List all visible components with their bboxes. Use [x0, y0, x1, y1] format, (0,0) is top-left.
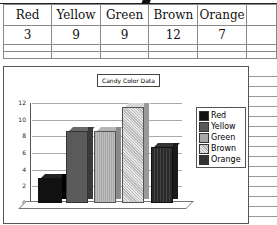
legend-item-red: Red — [199, 110, 243, 121]
legend-label: Yellow — [211, 122, 236, 131]
plot-area: 12 10 8 6 4 2 0 — [32, 103, 190, 203]
bar-side — [116, 127, 121, 199]
empty-cell[interactable] — [100, 52, 149, 59]
empty-cell[interactable] — [52, 45, 101, 52]
empty-cell[interactable] — [4, 45, 52, 52]
spreadsheet: Red Yellow Green Brown Orange 3 9 9 12 7 — [0, 0, 277, 225]
gridline — [32, 103, 182, 104]
legend-item-orange: Orange — [199, 154, 243, 165]
empty-row — [4, 45, 277, 52]
value-cell-orange[interactable]: 7 — [198, 26, 247, 45]
empty-cell[interactable] — [52, 52, 101, 59]
y-tick-label: 6 — [12, 149, 26, 156]
swatch-orange — [199, 155, 209, 165]
bar-side — [144, 103, 149, 199]
header-cell-yellow[interactable]: Yellow — [52, 5, 101, 26]
bar-face — [122, 107, 144, 203]
bar-face — [66, 131, 88, 203]
value-cell-green[interactable]: 9 — [100, 26, 149, 45]
y-tick-label: 2 — [12, 182, 26, 189]
legend-label: Red — [211, 111, 226, 120]
legend-label: Green — [211, 133, 235, 142]
bar-face — [94, 131, 116, 203]
bar-yellow[interactable] — [66, 131, 88, 203]
empty-cell[interactable] — [247, 52, 277, 59]
bar-orange[interactable] — [151, 147, 173, 203]
bar-red[interactable] — [38, 178, 62, 203]
empty-cell[interactable] — [149, 52, 198, 59]
header-cell-brown[interactable]: Brown — [149, 5, 198, 26]
y-tick-label: 4 — [12, 166, 26, 173]
header-row: Red Yellow Green Brown Orange — [4, 5, 277, 26]
value-cell-yellow[interactable]: 9 — [52, 26, 101, 45]
empty-cell[interactable] — [198, 45, 247, 52]
bar-brown[interactable] — [122, 107, 144, 203]
legend-item-yellow: Yellow — [199, 121, 243, 132]
empty-cell[interactable] — [247, 45, 277, 52]
empty-cell[interactable] — [4, 52, 52, 59]
header-cell-green[interactable]: Green — [100, 5, 149, 26]
header-cell-red[interactable]: Red — [4, 5, 52, 26]
legend-item-brown: Brown — [199, 143, 243, 154]
chart-container[interactable]: Candy Color Data 12 10 8 6 4 2 0 — [3, 66, 249, 224]
gridline — [32, 120, 182, 121]
chart-title: Candy Color Data — [97, 74, 160, 87]
header-cell-orange[interactable]: Orange — [198, 5, 247, 26]
bar-side — [88, 127, 93, 199]
swatch-yellow — [199, 122, 209, 132]
y-axis — [30, 103, 31, 203]
y-tick-label: 10 — [12, 116, 26, 123]
value-row: 3 9 9 12 7 — [4, 26, 277, 45]
empty-cell[interactable] — [247, 5, 277, 26]
empty-cell[interactable] — [198, 52, 247, 59]
swatch-brown — [199, 144, 209, 154]
empty-cell[interactable] — [149, 45, 198, 52]
bar-green[interactable] — [94, 131, 116, 203]
empty-cell[interactable] — [247, 26, 277, 45]
empty-cell[interactable] — [100, 45, 149, 52]
y-tick-label: 12 — [12, 99, 26, 106]
bar-face — [38, 178, 62, 203]
data-table: Red Yellow Green Brown Orange 3 9 9 12 7 — [3, 4, 277, 59]
legend-label: Brown — [211, 144, 236, 153]
chart-legend[interactable]: Red Yellow Green Brown Orange — [196, 107, 246, 168]
value-cell-brown[interactable]: 12 — [149, 26, 198, 45]
y-tick-label: 8 — [12, 132, 26, 139]
legend-label: Orange — [211, 155, 241, 164]
value-cell-red[interactable]: 3 — [4, 26, 52, 45]
swatch-red — [199, 111, 209, 121]
swatch-green — [199, 133, 209, 143]
bar-face — [151, 147, 173, 203]
legend-item-green: Green — [199, 132, 243, 143]
bar-side — [173, 143, 178, 199]
empty-row — [4, 52, 277, 59]
